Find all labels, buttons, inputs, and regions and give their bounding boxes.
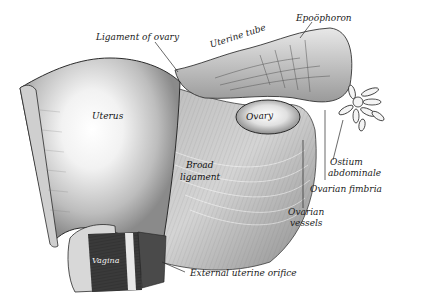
label-broad-ligament-line1: Broad: [186, 160, 213, 170]
label-epoophoron: Epoöphoron: [296, 13, 352, 23]
label-ovarian-vessels-line1: Ovarian: [288, 207, 324, 217]
label-vagina: Vagina: [92, 256, 119, 266]
label-ovary: Ovary: [246, 110, 274, 122]
label-ligament-of-ovary: Ligament of ovary: [96, 32, 179, 42]
label-external-uterine-orifice: External uterine orifice: [190, 268, 297, 278]
label-broad-ligament-line2: ligament: [180, 172, 220, 182]
label-ovarian-vessels-line2: vessels: [290, 218, 322, 228]
label-uterus: Uterus: [92, 111, 123, 121]
label-ostium-abdominale-line1: Ostium: [330, 157, 363, 167]
label-ovarian-fimbria: Ovarian fimbria: [310, 184, 382, 194]
label-ostium-abdominale-line2: abdominale: [328, 168, 381, 178]
uterine-tube: [175, 28, 352, 102]
leader-ostium-abdominale: [333, 120, 343, 160]
